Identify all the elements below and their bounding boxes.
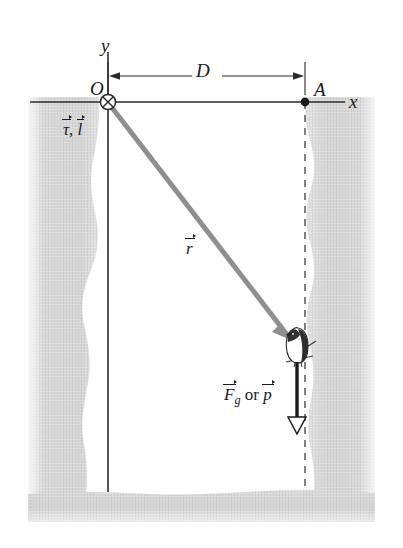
right-cliff bbox=[306, 97, 375, 494]
torque-angular-momentum-label: τ, l bbox=[63, 121, 82, 138]
momentum-vector-symbol: p bbox=[263, 386, 272, 403]
y-axis-label: y bbox=[101, 36, 109, 55]
x-axis-label: x bbox=[349, 92, 357, 111]
force-subscript: g bbox=[234, 393, 240, 407]
force-momentum-label: Fg or p bbox=[224, 386, 272, 406]
force-conjunction: or bbox=[245, 385, 259, 404]
l-vector-symbol: l bbox=[78, 121, 83, 138]
left-cliff bbox=[28, 97, 99, 494]
tau-vector-symbol: τ bbox=[63, 121, 69, 138]
physics-diagram: y x O A D r τ, l Fg or p bbox=[0, 0, 403, 548]
down-arrow-icon bbox=[288, 362, 306, 434]
distance-label: D bbox=[196, 61, 210, 80]
point-a-label: A bbox=[314, 80, 326, 99]
force-vector-symbol: F bbox=[224, 386, 234, 403]
r-vector-arrow-icon bbox=[110, 105, 293, 341]
r-vector-label: r bbox=[186, 240, 193, 257]
diagram-canvas bbox=[0, 0, 403, 548]
origin-label: O bbox=[90, 79, 104, 98]
r-vector-symbol: r bbox=[186, 240, 193, 257]
ground bbox=[28, 490, 375, 522]
point-a-dot-icon bbox=[301, 98, 310, 107]
